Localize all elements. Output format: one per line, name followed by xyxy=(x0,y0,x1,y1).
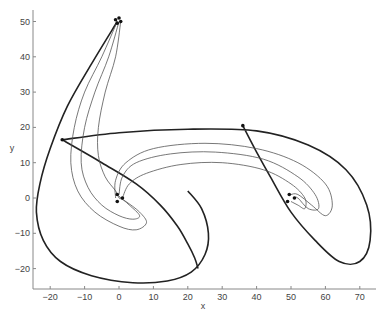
x-tick-label: −20 xyxy=(43,292,58,302)
trajectory-line xyxy=(81,22,140,220)
trajectory-line xyxy=(122,162,306,208)
point-marker xyxy=(117,16,121,20)
x-tick-label: 60 xyxy=(320,292,330,302)
x-tick-label: 10 xyxy=(148,292,158,302)
trajectory-line xyxy=(62,126,370,265)
point-marker xyxy=(241,124,245,128)
y-tick-label: 30 xyxy=(20,87,30,97)
point-marker xyxy=(121,196,125,200)
x-axis: −20−10010203040506070 xyxy=(33,286,376,302)
trajectory-line xyxy=(71,22,147,230)
y-tick-label: −20 xyxy=(15,264,30,274)
chart: −20−10010203040506070 −20−1001020304050 … xyxy=(0,0,390,322)
y-tick-label: 50 xyxy=(20,17,30,27)
y-axis: −20−1001020304050 xyxy=(15,10,36,289)
x-tick-label: 40 xyxy=(252,292,262,302)
x-tick-label: 30 xyxy=(217,292,227,302)
point-marker xyxy=(119,20,123,24)
plot-area xyxy=(36,16,370,283)
point-marker xyxy=(115,200,119,204)
y-tick-label: −10 xyxy=(15,228,30,238)
x-tick-label: 50 xyxy=(286,292,296,302)
x-tick-label: 70 xyxy=(355,292,365,302)
point-marker xyxy=(60,138,64,142)
point-marker xyxy=(115,21,119,25)
y-tick-label: 40 xyxy=(20,52,30,62)
trajectory-line xyxy=(115,143,332,215)
y-axis-label: y xyxy=(10,143,15,153)
x-tick-label: 20 xyxy=(183,292,193,302)
y-tick-label: 0 xyxy=(25,193,30,203)
x-tick-label: 0 xyxy=(116,292,121,302)
point-marker xyxy=(286,200,290,204)
x-axis-label: x xyxy=(201,301,206,311)
y-tick-label: 10 xyxy=(20,158,30,168)
point-marker xyxy=(293,196,297,200)
point-marker xyxy=(287,193,291,197)
point-marker xyxy=(115,193,119,197)
point-marker xyxy=(114,18,118,22)
x-tick-label: −10 xyxy=(77,292,92,302)
y-tick-label: 20 xyxy=(20,122,30,132)
